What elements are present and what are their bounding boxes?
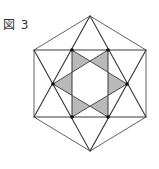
vertex-dot <box>106 48 110 52</box>
vertex-dot <box>125 82 129 86</box>
shaded-triangle <box>53 72 72 95</box>
shaded-triangle <box>72 96 90 117</box>
diagram-lines <box>34 16 146 151</box>
outer-hexagon <box>34 16 146 151</box>
vertex-dot <box>70 48 74 52</box>
big-triangle-down <box>34 50 146 151</box>
shaded-triangle <box>90 50 108 72</box>
vertex-dot <box>51 82 55 86</box>
shaded-triangle <box>108 72 127 95</box>
vertex-dot <box>70 115 74 119</box>
shaded-triangle <box>90 96 108 117</box>
shaded-triangle <box>72 50 90 72</box>
hexagram-diagram <box>0 0 159 169</box>
shaded-triangles <box>53 50 127 117</box>
vertex-dot <box>106 115 110 119</box>
big-triangle-up <box>34 16 146 117</box>
